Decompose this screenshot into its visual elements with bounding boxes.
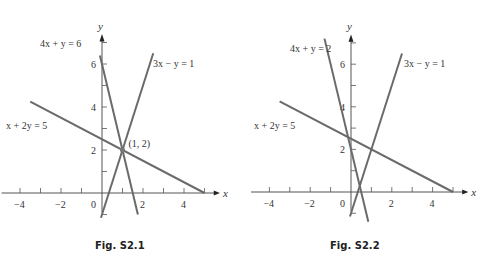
y-axis-label: y xyxy=(346,20,352,32)
equation-label: 4x + y = 6 xyxy=(40,38,81,49)
y-axis-arrow-icon xyxy=(349,34,354,41)
intersection-label: (1, 2) xyxy=(129,138,151,150)
figure-canvas: xy−4−20242464x + y = 63x − y = 1x + 2y =… xyxy=(0,0,488,265)
equation-line xyxy=(100,55,138,214)
x-axis-label: x xyxy=(470,186,476,198)
y-tick-label: 2 xyxy=(340,144,345,155)
equation-label: 3x − y = 1 xyxy=(153,58,194,69)
y-tick-label: 6 xyxy=(340,59,345,70)
equation-line xyxy=(280,101,453,192)
equation-label: x + 2y = 5 xyxy=(6,120,47,131)
x-axis-arrow-icon xyxy=(462,190,468,195)
equation-line xyxy=(30,102,204,193)
x-tick-label: 4 xyxy=(430,198,435,209)
x-tick-label: −2 xyxy=(304,198,315,209)
y-tick-label: 6 xyxy=(91,59,96,70)
y-tick-label: 2 xyxy=(91,145,96,156)
y-tick-label: 4 xyxy=(91,102,96,113)
x-axis-label: x xyxy=(222,187,228,199)
x-axis-arrow-icon xyxy=(214,191,220,196)
intersection-point xyxy=(120,148,125,153)
x-tick-label: 4 xyxy=(181,199,186,210)
y-axis-label: y xyxy=(97,20,103,32)
equation-label: x + 2y = 5 xyxy=(254,120,295,131)
x-tick-label: 2 xyxy=(389,198,394,209)
x-tick-label: 0 xyxy=(91,199,96,210)
equation-label: 4x + y = 2 xyxy=(290,43,331,54)
equation-label: 3x − y = 1 xyxy=(404,58,445,69)
figure-caption-1: Fig. S2.1 xyxy=(95,240,145,251)
x-tick-label: −2 xyxy=(55,199,66,210)
x-tick-label: −4 xyxy=(14,199,25,210)
x-tick-label: 2 xyxy=(140,199,145,210)
figure-caption-2: Fig. S2.2 xyxy=(330,240,380,251)
equation-line xyxy=(324,39,368,222)
x-tick-label: −4 xyxy=(263,198,274,209)
y-axis-arrow-icon xyxy=(100,34,105,42)
x-tick-label: 0 xyxy=(340,198,345,209)
